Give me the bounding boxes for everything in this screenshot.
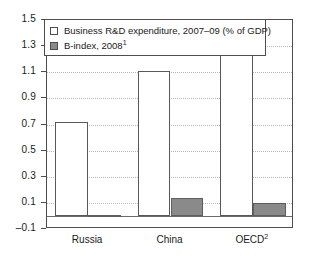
- bar-china-business-rd: [138, 71, 171, 216]
- legend-swatch-business-rd: [50, 27, 58, 35]
- legend-footnote-marker: 1: [123, 39, 127, 46]
- bar-russia-business-rd: [55, 122, 88, 216]
- y-tick-label: 0.7: [0, 119, 36, 129]
- y-tick-mark: [41, 228, 46, 229]
- y-tick-label: 1.5: [0, 14, 36, 24]
- legend-label-b-index: B-index, 20081: [64, 41, 127, 51]
- y-tick-label: 0.3: [0, 171, 36, 181]
- bar-russia-b-index: [88, 215, 121, 217]
- chart-figure: 1.51.31.10.90.70.50.30.1–0.1 RussiaChina…: [0, 0, 312, 262]
- x-tick-label-russia: Russia: [47, 234, 127, 245]
- x-tick-label-text: China: [156, 234, 182, 245]
- bar-oecd-b-index: [253, 203, 286, 216]
- legend-item-0: Business R&D expenditure, 2007–09 (% of …: [50, 24, 260, 38]
- legend: Business R&D expenditure, 2007–09 (% of …: [44, 19, 266, 56]
- x-tick-label-text: OECD: [235, 234, 264, 245]
- x-tick-label-text: Russia: [72, 234, 103, 245]
- legend-item-1: B-index, 20081: [50, 39, 260, 53]
- bar-china-b-index: [171, 198, 204, 216]
- zero-baseline: [47, 216, 292, 217]
- y-tick-label: 0.9: [0, 92, 36, 102]
- legend-label-b-index-text: B-index, 2008: [64, 40, 123, 51]
- legend-label-business-rd: Business R&D expenditure, 2007–09 (% of …: [64, 26, 271, 36]
- bar-oecd-business-rd: [220, 53, 253, 216]
- y-tick-label: 0.1: [0, 197, 36, 207]
- legend-swatch-b-index: [50, 42, 58, 50]
- x-tick-footnote-marker: 2: [264, 233, 268, 240]
- x-tick-label-china: China: [130, 234, 210, 245]
- y-tick-label: –0.1: [0, 223, 36, 233]
- y-tick-label: 1.3: [0, 40, 36, 50]
- y-tick-label: 1.1: [0, 66, 36, 76]
- y-tick-label: 0.5: [0, 145, 36, 155]
- x-tick-label-oecd: OECD2: [212, 234, 292, 245]
